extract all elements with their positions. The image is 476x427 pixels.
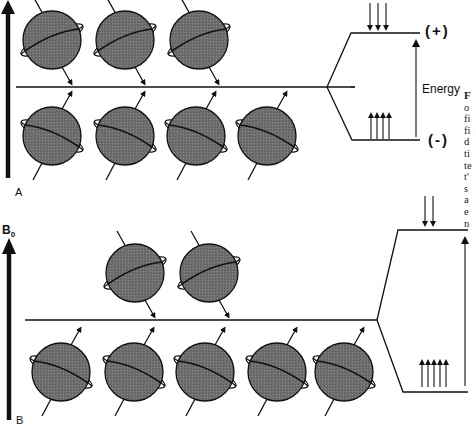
upper-energy-level-a [327, 33, 420, 87]
energy-label: Energy [422, 82, 460, 96]
panel-label-a: A [15, 186, 22, 198]
spin-down-arrows-b [425, 196, 433, 224]
field-arrowhead-a-icon [1, 0, 15, 14]
spin-up-nucleus [243, 329, 311, 416]
panel-label-b: B [16, 414, 23, 426]
spin-up-arrows-b [422, 362, 446, 387]
figure-caption-fragment: F o fi fi d ti te t' s a e n [464, 90, 476, 229]
spin-up-nucleus [91, 93, 159, 180]
spin-down-nucleus [101, 231, 169, 316]
spin-down-nucleus [175, 231, 243, 316]
panel-a [1, 0, 420, 180]
lower-energy-level-a [327, 87, 420, 140]
field-label-b0: B0 [2, 223, 15, 239]
spin-down-nucleus [165, 0, 233, 83]
spin-up-nucleus [171, 329, 239, 416]
spin-down-nucleus [18, 0, 86, 83]
spin-down-nucleus [91, 0, 159, 83]
field-arrowhead-b-icon [2, 238, 16, 254]
upper-state-label-a: (+) [425, 22, 450, 39]
spin-up-nucleus [18, 93, 86, 180]
spin-up-nucleus [233, 93, 301, 180]
spin-down-arrows-a [370, 3, 386, 28]
spin-up-nucleus [100, 329, 168, 416]
spin-up-arrows-a [371, 115, 389, 139]
panel-b [2, 196, 468, 420]
upper-energy-level-b [377, 230, 468, 320]
spin-up-nucleus [162, 93, 230, 180]
spin-up-nucleus [310, 329, 378, 416]
lower-state-label-a: (-) [428, 131, 449, 148]
spin-up-nucleus [27, 329, 95, 416]
